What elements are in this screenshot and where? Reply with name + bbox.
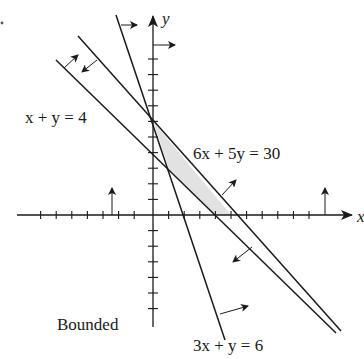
arrow-6x-plus-5y-30-label	[222, 180, 236, 195]
stray-dot	[1, 22, 4, 25]
bounded-label: Bounded	[57, 316, 118, 333]
y-axis-label: y	[162, 10, 170, 27]
arrow-3x-plus-y-6-bottom	[220, 306, 248, 314]
line-3x-plus-y-6	[116, 15, 225, 340]
arrow-x-plus-y-4	[64, 55, 78, 68]
line-x-plus-y-4	[56, 60, 336, 333]
label-3x-plus-y-6: 3x + y = 6	[193, 337, 263, 354]
arrow-6x-plus-5y-30-bottom	[233, 247, 252, 262]
feasible-region	[153, 121, 231, 215]
diagram-graphics	[0, 0, 364, 359]
feasible-region-diagram: y x x + y = 4 6x + 5y = 30 3x + y = 6 Bo…	[0, 0, 364, 359]
label-x-plus-y-4: x + y = 4	[25, 109, 87, 126]
line-6x-plus-5y-30	[78, 36, 341, 331]
label-6x-plus-5y-30: 6x + 5y = 30	[193, 145, 280, 162]
x-axis-label: x	[357, 208, 364, 225]
arrow-6x-plus-5y-30-top	[82, 60, 97, 72]
